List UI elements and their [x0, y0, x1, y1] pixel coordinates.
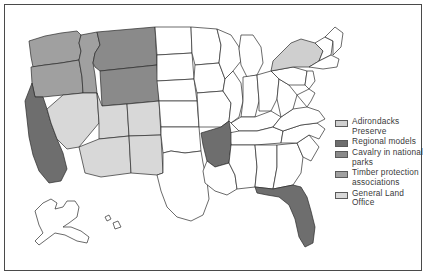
legend-swatch-adirondacks-preserve [335, 120, 348, 127]
state-alaska[interactable] [35, 199, 89, 245]
state-indiana[interactable] [241, 75, 259, 117]
legend-swatch-regional-models [335, 140, 348, 147]
legend-label-adirondacks-preserve: Adirondacks Preserve [352, 117, 426, 136]
state-nebraska[interactable] [157, 79, 197, 101]
state-georgia[interactable] [273, 143, 303, 189]
state-texas[interactable] [157, 151, 209, 221]
state-minnesota[interactable] [191, 27, 221, 65]
legend-item-timber-protection-associations[interactable]: Timber protection associations [335, 168, 426, 187]
legend-label-timber-protection-associations: Timber protection associations [352, 168, 426, 187]
legend-swatch-general-land-office [335, 192, 348, 199]
state-montana[interactable] [93, 27, 157, 71]
map-legend: Adirondacks Preserve Regional models Cav… [335, 117, 426, 209]
state-kansas[interactable] [159, 101, 199, 127]
state-wyoming[interactable] [100, 65, 159, 106]
legend-label-general-land-office: General Land Office [352, 189, 426, 208]
legend-item-cavalry-in-national-parks[interactable]: Cavalry in national parks [335, 148, 426, 167]
state-south-dakota[interactable] [157, 53, 194, 81]
us-map [5, 5, 345, 272]
legend-item-general-land-office[interactable]: General Land Office [335, 189, 426, 208]
state-alabama[interactable] [255, 145, 277, 189]
legend-item-regional-models[interactable]: Regional models [335, 137, 426, 147]
legend-label-cavalry-in-national-parks: Cavalry in national parks [352, 148, 426, 167]
figure-frame: Adirondacks Preserve Regional models Cav… [4, 4, 422, 271]
state-north-dakota[interactable] [155, 27, 192, 55]
state-missouri[interactable] [197, 91, 231, 127]
legend-label-regional-models: Regional models [352, 137, 416, 147]
state-arizona[interactable] [79, 136, 131, 177]
legend-item-adirondacks-preserve[interactable]: Adirondacks Preserve [335, 117, 426, 136]
state-florida[interactable] [255, 185, 315, 247]
state-new-mexico[interactable] [129, 135, 163, 175]
us-map-svg [5, 5, 345, 272]
state-oregon[interactable] [31, 60, 83, 97]
state-oklahoma[interactable] [161, 127, 201, 153]
state-michigan[interactable] [239, 35, 263, 77]
state-hawaii[interactable] [105, 215, 111, 221]
legend-swatch-timber-protection-associations [335, 171, 348, 178]
state-hawaii-island-2[interactable] [113, 221, 121, 229]
state-colorado[interactable] [127, 101, 161, 136]
map-figure: Adirondacks Preserve Regional models Cav… [0, 0, 426, 275]
state-new-jersey[interactable] [305, 71, 315, 89]
state-arkansas[interactable] [201, 121, 231, 167]
state-ohio[interactable] [257, 71, 279, 111]
legend-swatch-cavalry-in-national-parks [335, 151, 348, 158]
state-maryland-delaware[interactable] [297, 89, 315, 107]
